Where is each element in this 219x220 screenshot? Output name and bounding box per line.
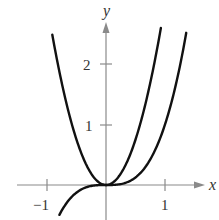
y-axis-label: y bbox=[101, 2, 111, 20]
cubic-curve bbox=[59, 33, 186, 215]
x-axis-arrow-icon bbox=[194, 182, 205, 189]
y-axis-arrow-icon bbox=[103, 22, 110, 33]
graph-canvas: −1 1 1 2 x y bbox=[0, 0, 219, 220]
x-tick-label-neg1: −1 bbox=[33, 197, 49, 213]
x-axis-label: x bbox=[208, 176, 216, 193]
y-tick-label-1: 1 bbox=[85, 118, 93, 134]
x-tick-label-1: 1 bbox=[161, 197, 169, 213]
y-tick-label-2: 2 bbox=[83, 57, 91, 73]
